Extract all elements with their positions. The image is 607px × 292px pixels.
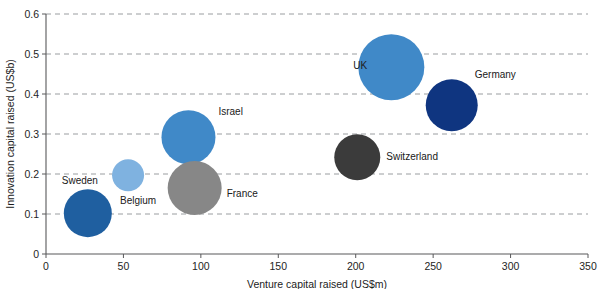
x-tick-label-150: 150 bbox=[270, 260, 288, 272]
bubble-sweden[interactable] bbox=[64, 189, 112, 237]
bubble-label-israel: Israel bbox=[218, 106, 242, 117]
bubble-israel[interactable] bbox=[161, 110, 215, 164]
x-axis-ticks: 050100150200250300350 bbox=[43, 254, 597, 272]
bubble-label-uk: UK bbox=[353, 60, 367, 71]
x-tick-label-250: 250 bbox=[424, 260, 442, 272]
y-tick-label-0.3: 0.3 bbox=[24, 128, 39, 140]
bubble-label-sweden: Sweden bbox=[62, 175, 98, 186]
bubble-uk[interactable] bbox=[358, 34, 424, 100]
bubble-chart: 00.10.20.30.40.50.6 05010015020025030035… bbox=[0, 0, 607, 292]
x-tick-label-100: 100 bbox=[192, 260, 210, 272]
y-tick-label-0.1: 0.1 bbox=[24, 208, 39, 220]
y-axis-ticks: 00.10.20.30.40.50.6 bbox=[24, 8, 46, 260]
bubble-belgium[interactable] bbox=[112, 159, 144, 191]
bubble-label-germany: Germany bbox=[475, 69, 516, 80]
y-axis-title: Innovation capital raised (US$b) bbox=[4, 59, 16, 208]
bubble-label-france: France bbox=[227, 188, 259, 199]
bubble-germany[interactable] bbox=[426, 79, 478, 131]
bubble-france[interactable] bbox=[168, 161, 222, 215]
x-tick-label-200: 200 bbox=[347, 260, 365, 272]
y-tick-label-0: 0 bbox=[33, 248, 39, 260]
plot-area: 00.10.20.30.40.50.6 05010015020025030035… bbox=[0, 0, 607, 292]
x-tick-label-350: 350 bbox=[579, 260, 597, 272]
x-tick-label-50: 50 bbox=[118, 260, 130, 272]
bubble-switzerland[interactable] bbox=[334, 134, 380, 180]
y-tick-label-0.6: 0.6 bbox=[24, 8, 39, 20]
bubble-label-switzerland: Switzerland bbox=[386, 151, 438, 162]
y-tick-label-0.4: 0.4 bbox=[24, 88, 39, 100]
bubble-label-belgium: Belgium bbox=[120, 195, 156, 206]
bubble-series bbox=[64, 34, 478, 237]
x-tick-label-300: 300 bbox=[502, 260, 520, 272]
y-tick-label-0.5: 0.5 bbox=[24, 48, 39, 60]
x-tick-label-0: 0 bbox=[43, 260, 49, 272]
y-tick-label-0.2: 0.2 bbox=[24, 168, 39, 180]
